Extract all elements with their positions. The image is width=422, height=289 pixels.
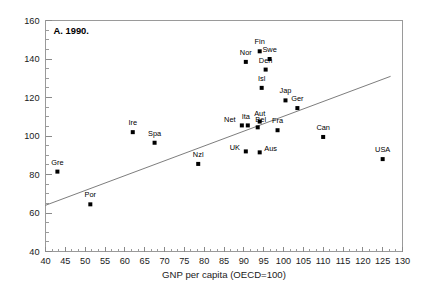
data-point-marker[interactable] — [264, 68, 268, 72]
data-point-marker[interactable] — [258, 150, 262, 154]
trend-line — [46, 76, 391, 205]
data-point-label: Gre — [51, 158, 63, 167]
x-axis-tick-label: 70 — [159, 256, 169, 266]
data-point-marker[interactable] — [321, 135, 325, 139]
y-axis-tick-label: 140 — [24, 54, 39, 64]
x-axis-tick-label: 60 — [120, 256, 130, 266]
y-axis-tick-label: 120 — [24, 93, 39, 103]
data-point-marker[interactable] — [244, 149, 248, 153]
data-point-label: Ger — [291, 94, 304, 103]
y-axis-tick-label: 80 — [29, 170, 39, 180]
y-axis-tick-label: 40 — [29, 247, 39, 257]
scatter-plot: 4045505560657075808590951001051101151201… — [0, 0, 422, 289]
data-point-marker[interactable] — [276, 128, 280, 132]
data-point-label: Net — [224, 115, 236, 124]
x-axis-tick-label: 130 — [395, 256, 410, 266]
data-point-marker[interactable] — [244, 60, 248, 64]
x-axis-tick-label: 85 — [219, 256, 229, 266]
x-axis-tick-label: 120 — [355, 256, 370, 266]
x-axis-tick-label: 125 — [375, 256, 390, 266]
data-point-marker[interactable] — [153, 141, 157, 145]
x-axis-tick-label: 90 — [239, 256, 249, 266]
data-point-label: Nor — [240, 48, 252, 57]
data-point-marker[interactable] — [196, 162, 200, 166]
data-point-marker[interactable] — [240, 123, 244, 127]
data-point-marker[interactable] — [55, 170, 59, 174]
x-axis-tick-label: 115 — [336, 256, 351, 266]
x-axis-tick-label: 110 — [316, 256, 331, 266]
data-point-marker[interactable] — [258, 49, 262, 53]
data-point-label: Fra — [272, 116, 284, 125]
data-point-label: Spa — [148, 129, 162, 138]
x-axis-tick-label: 105 — [296, 256, 311, 266]
data-point-label: Can — [316, 123, 330, 132]
x-axis-tick-label: 80 — [199, 256, 209, 266]
chart-figure: 4045505560657075808590951001051101151201… — [0, 0, 422, 289]
data-point-label: Por — [85, 190, 97, 199]
data-point-label: Aus — [264, 144, 277, 153]
y-axis-tick-label: 160 — [24, 16, 39, 26]
x-axis-tick-label: 65 — [140, 256, 150, 266]
plot-frame — [46, 21, 403, 252]
data-point-label: USA — [375, 145, 390, 154]
data-point-label: Den — [259, 56, 273, 65]
data-point-label: Jap — [280, 86, 292, 95]
data-point-label: Ita — [242, 112, 251, 121]
data-point-marker[interactable] — [283, 98, 287, 102]
x-axis-title: GNP per capita (OECD=100) — [162, 269, 286, 280]
data-point-marker[interactable] — [131, 130, 135, 134]
data-point-marker[interactable] — [381, 157, 385, 161]
x-axis-tick-label: 50 — [80, 256, 90, 266]
x-axis-tick-label: 45 — [60, 256, 70, 266]
data-point-label: Swe — [262, 45, 276, 54]
x-axis-tick-label: 75 — [179, 256, 189, 266]
data-point-label: Ire — [128, 118, 137, 127]
data-point-marker[interactable] — [88, 202, 92, 206]
x-axis-tick-label: 55 — [100, 256, 110, 266]
data-point-marker[interactable] — [246, 123, 250, 127]
data-point-marker[interactable] — [260, 86, 264, 90]
data-point-label: Aut — [254, 109, 265, 118]
data-point-label: Nzl — [193, 150, 204, 159]
y-axis-tick-label: 60 — [29, 208, 39, 218]
data-point-marker[interactable] — [256, 125, 260, 129]
data-point-label: Isl — [258, 74, 266, 83]
x-axis-tick-label: 95 — [259, 256, 269, 266]
data-point-marker[interactable] — [258, 120, 262, 124]
data-point-label: UK — [230, 143, 240, 152]
data-point-marker[interactable] — [295, 106, 299, 110]
y-axis-tick-label: 100 — [24, 131, 39, 141]
x-axis-tick-label: 40 — [40, 256, 50, 266]
x-axis-tick-label: 100 — [276, 256, 291, 266]
panel-title: A. 1990. — [54, 25, 89, 36]
